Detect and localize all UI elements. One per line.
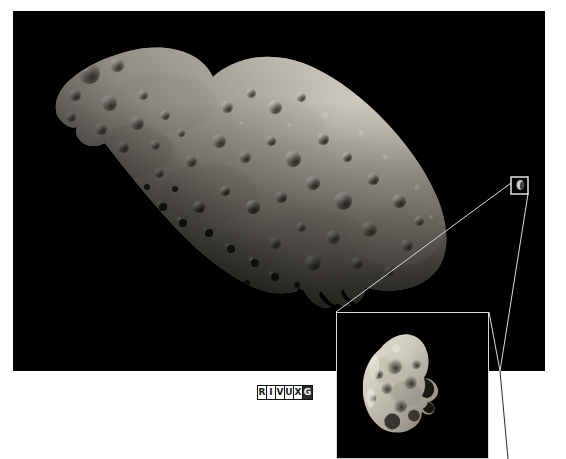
figure-root: R I V U X G <box>0 0 566 459</box>
rivuxg-cell-i: I <box>267 386 276 399</box>
rivuxg-cell-g: G <box>303 386 312 399</box>
rivuxg-cell-x: X <box>294 386 303 399</box>
page-margin-sliver <box>560 300 566 459</box>
dactyl-inset-plate <box>336 312 489 459</box>
rivuxg-cell-u: U <box>285 386 294 399</box>
rivuxg-cell-r: R <box>258 386 267 399</box>
rivuxg-cell-v: V <box>276 386 285 399</box>
dactyl-magnified-image <box>337 313 488 458</box>
rivuxg-wavelength-indicator: R I V U X G <box>257 385 313 400</box>
